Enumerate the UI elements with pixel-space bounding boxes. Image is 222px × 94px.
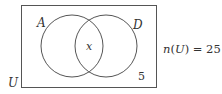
universe-count-annotation: n(U) = 25 [163,42,221,56]
set-a-label: A [36,16,46,30]
n-symbol: n [163,42,170,56]
outside-value: 5 [138,70,145,83]
annotation-rest: ) = 25 [185,42,221,56]
intersection-value: x [86,40,93,53]
set-d-circle [75,15,137,77]
set-d-label: D [132,18,143,32]
annotation-set: U [175,42,185,56]
set-a-circle [41,15,103,77]
venn-diagram: A D x 5 U n(U) = 25 [0,0,222,94]
universe-label: U [8,76,19,90]
